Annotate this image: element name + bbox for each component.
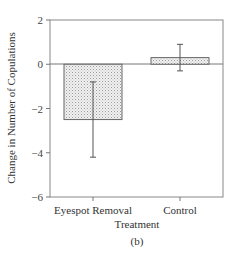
bar-chart: 20−2−4−6 Eyespot RemovalControl Change i… bbox=[0, 0, 234, 261]
panel-label: (b) bbox=[131, 235, 144, 248]
y-tick-label: −6 bbox=[31, 191, 43, 203]
y-axis: 20−2−4−6 bbox=[31, 14, 50, 203]
x-tick-label: Eyespot Removal bbox=[54, 204, 132, 216]
y-tick-label: −2 bbox=[31, 103, 43, 115]
y-tick-label: 0 bbox=[38, 58, 44, 70]
bars bbox=[64, 44, 209, 157]
y-axis-title: Change in Number of Copulations bbox=[5, 32, 17, 184]
y-tick-label: −4 bbox=[31, 147, 43, 159]
x-axis-title: Treatment bbox=[115, 218, 160, 230]
y-tick-label: 2 bbox=[38, 14, 44, 26]
x-axis: Eyespot RemovalControl bbox=[54, 197, 197, 216]
x-tick-label: Control bbox=[163, 204, 197, 216]
